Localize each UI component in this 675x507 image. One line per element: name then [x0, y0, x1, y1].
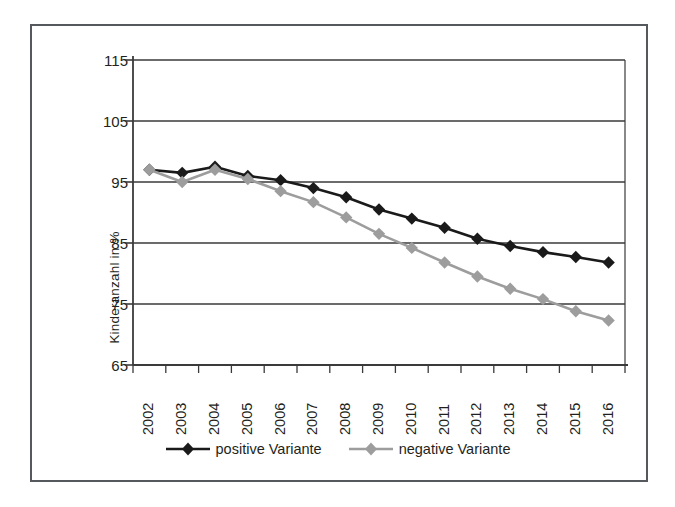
- line-chart: Kinderanzahl in % 115 105 95 85 75 65 20…: [0, 0, 675, 507]
- x-axis-tick-labels: 2002200320042005200620072008200920102011…: [0, 0, 675, 507]
- legend-item-negative: negative Variante: [348, 440, 511, 458]
- legend-item-positive: positive Variante: [165, 440, 322, 458]
- legend-label-positive: positive Variante: [216, 441, 322, 457]
- x-tick-2016: 2016: [180, 375, 615, 435]
- legend-line-negative-icon: [348, 440, 394, 458]
- legend-line-positive-icon: [165, 440, 211, 458]
- legend-label-negative: negative Variante: [399, 441, 511, 457]
- chart-legend: positive Variante negative Variante: [0, 440, 675, 458]
